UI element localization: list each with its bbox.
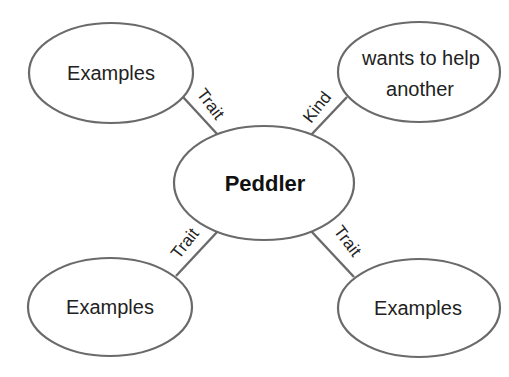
- node-top-right-label-line1: wants to help: [361, 47, 480, 69]
- node-bottom-right-label: Examples: [374, 297, 462, 319]
- edge-label-top-left: Trait: [193, 85, 228, 123]
- center-node-label: Peddler: [225, 171, 306, 196]
- character-web-diagram: Trait Kind Trait Trait Examples wants to…: [0, 0, 509, 377]
- node-bottom-right: Examples: [338, 259, 500, 357]
- node-top-left: Examples: [29, 23, 193, 123]
- node-top-left-label: Examples: [67, 62, 155, 84]
- node-top-right: wants to help another: [338, 22, 500, 122]
- node-bottom-left: Examples: [28, 258, 192, 356]
- node-bottom-left-label: Examples: [66, 296, 154, 318]
- edge-label-bottom-left: Trait: [167, 224, 203, 262]
- edge-label-top-right: Kind: [299, 88, 335, 127]
- edge-label-bottom-right: Trait: [330, 222, 365, 260]
- node-top-right-label-line2: another: [386, 78, 454, 100]
- node-center: Peddler: [174, 126, 354, 240]
